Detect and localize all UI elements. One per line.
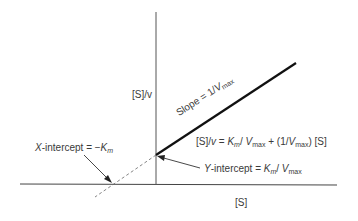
x-intercept-label: X-intercept = −Km — [35, 143, 113, 153]
y-intercept-label: Y-intercept = Km/ Vmax — [204, 164, 302, 174]
y-axis-label: [S]/v — [132, 90, 152, 100]
dashed-extrapolation-line — [95, 155, 156, 197]
x-axis — [20, 184, 337, 185]
y-intercept-arrow-shaft — [160, 157, 200, 168]
y-intercept-arrow-head — [157, 155, 165, 161]
x-axis-label: [S] — [235, 198, 247, 208]
equation-label: [S]/v = Km/ Vmax + (1/Vmax) [S] — [196, 137, 327, 147]
